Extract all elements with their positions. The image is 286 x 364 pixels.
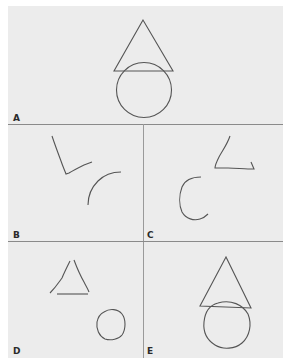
circle-stroke (204, 302, 250, 348)
triangle-corner-stroke (215, 136, 254, 169)
panel-b: B (8, 125, 143, 241)
separated-drawing (8, 242, 143, 358)
panel-label-d: D (13, 346, 20, 356)
panel-label-c: C (147, 230, 154, 240)
panel-e: E (144, 242, 283, 358)
panel-a: A (8, 6, 283, 124)
triangle-shape (200, 257, 251, 308)
triangle-right-stroke (74, 260, 89, 292)
panel-d: D (8, 242, 143, 358)
fragmented-drawing (8, 125, 143, 241)
circle-stroke (97, 310, 125, 340)
complete-copy-drawing (144, 242, 283, 358)
arc-stroke (88, 172, 121, 205)
triangle-left-stroke (50, 261, 70, 293)
figure: A B C D E (8, 6, 283, 358)
panel-label-a: A (13, 113, 20, 123)
partial-drawing (144, 125, 283, 241)
panel-c: C (144, 125, 283, 241)
angular-stroke (52, 136, 92, 174)
c-arc-stroke (180, 177, 208, 220)
panel-label-b: B (13, 230, 20, 240)
panel-label-e: E (147, 346, 153, 356)
model-drawing (8, 6, 283, 124)
triangle-shape (114, 20, 173, 71)
